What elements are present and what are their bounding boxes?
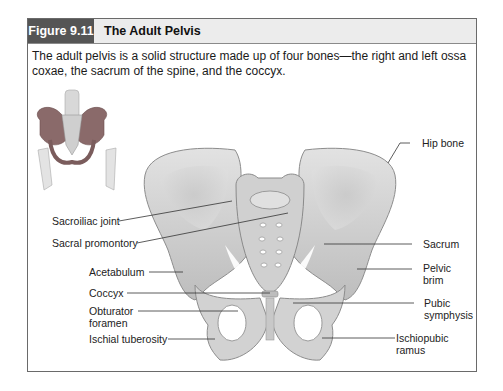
label-coccyx: Coccyx (89, 287, 123, 299)
label-hip-bone: Hip bone (422, 137, 464, 149)
label-pubic-line1: Pubic (424, 297, 473, 309)
label-ischiopubic-ramus: Ischiopubic ramus (396, 332, 449, 356)
label-pelvic-brim: Pelvic brim (423, 262, 451, 286)
label-pelvic-line1: Pelvic (423, 262, 451, 274)
label-ischial-tuberosity: Ischial tuberosity (89, 333, 167, 345)
label-obturator-foramen: Obturator foramen (89, 305, 133, 329)
label-sacral-promontory: Sacral promontory (52, 237, 138, 249)
label-pubic-line2: symphysis (424, 309, 473, 321)
label-pelvic-line2: brim (423, 274, 451, 286)
label-sacrum: Sacrum (423, 238, 459, 250)
label-obturator-line2: foramen (89, 317, 133, 329)
label-pubic-symphysis: Pubic symphysis (424, 297, 473, 321)
label-sacroiliac-joint: Sacroiliac joint (52, 215, 120, 227)
label-ischiopubic-line1: Ischiopubic (396, 332, 449, 344)
label-ischiopubic-line2: ramus (396, 344, 449, 356)
label-acetabulum: Acetabulum (89, 266, 144, 278)
thumbnail-pelvis-icon (37, 90, 116, 190)
main-pelvis-illustration (144, 148, 396, 360)
label-obturator-line1: Obturator (89, 305, 133, 317)
